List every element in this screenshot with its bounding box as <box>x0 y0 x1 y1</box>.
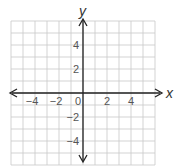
x-tick-label: 2 <box>104 95 110 107</box>
x-tick-label: −2 <box>50 95 63 107</box>
x-tick-label: −4 <box>26 95 39 107</box>
axes <box>10 19 162 162</box>
coordinate-plane: x y −4−202442−2−4 <box>0 0 176 167</box>
y-tick-label: 2 <box>73 63 79 75</box>
x-tick-label: 4 <box>128 95 134 107</box>
y-tick-label: −4 <box>66 135 79 147</box>
y-axis-label: y <box>78 3 87 19</box>
y-tick-label: −2 <box>66 111 79 123</box>
x-tick-label: 0 <box>75 95 81 107</box>
y-tick-label: 4 <box>73 39 79 51</box>
x-axis-label: x <box>165 85 174 101</box>
